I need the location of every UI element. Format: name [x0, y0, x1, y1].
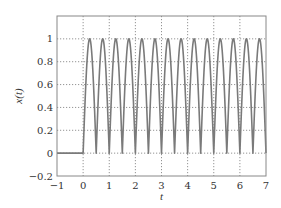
- y-tick-label: −0.2: [29, 171, 53, 182]
- y-tick-label: 0: [47, 148, 53, 159]
- y-tick-label: 0.8: [37, 56, 53, 67]
- x-tick-label: 6: [237, 180, 243, 191]
- y-tick-label: 1: [47, 33, 53, 44]
- x-tick-label: 4: [184, 180, 190, 191]
- x-tick-label: 2: [132, 180, 138, 191]
- x-tick-label: 0: [80, 180, 86, 191]
- x-tick-label: 7: [263, 180, 269, 191]
- x-tick-label: 5: [211, 180, 217, 191]
- y-tick-labels: −0.200.20.40.60.81: [29, 33, 53, 181]
- y-tick-label: 0.4: [37, 102, 53, 113]
- y-axis-label: x(t): [12, 88, 25, 105]
- x-tick-label: 1: [106, 180, 112, 191]
- x-axis-label: t: [160, 190, 164, 202]
- chart: −101234567 −0.200.20.40.60.81 t x(t): [0, 0, 281, 208]
- y-tick-label: 0.2: [37, 125, 53, 136]
- y-tick-label: 0.6: [37, 79, 53, 90]
- x-tick-label: −1: [50, 180, 65, 191]
